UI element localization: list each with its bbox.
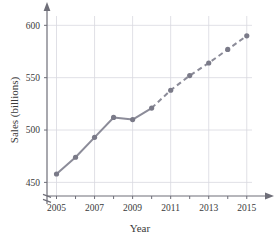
data-point-marker [187,73,192,78]
data-point-marker [168,88,173,93]
x-tick-label: 2007 [85,203,104,213]
x-tick-label: 2011 [161,203,180,213]
y-axis-title: Sales (billions) [8,62,20,158]
data-point-marker [206,60,211,65]
axes [43,2,274,204]
gridlines [47,16,252,196]
y-tick-label: 600 [26,21,41,31]
x-tick-label: 2013 [199,203,218,213]
data-point-marker [244,33,249,38]
x-tick-label: 2015 [237,203,256,213]
sales-line-chart: 450500550600200520072009201120132015 Sal… [0,0,278,244]
data-point-marker [149,105,154,110]
y-axis-arrow [44,2,51,11]
x-tick-label: 2009 [123,203,142,213]
data-point-marker [73,155,78,160]
chart-canvas: 450500550600200520072009201120132015 [0,0,278,244]
data-point-marker [92,135,97,140]
data-point-marker [225,47,230,52]
data-point-marker [111,115,116,120]
y-tick-label: 550 [26,73,41,83]
x-tick-label: 2005 [47,203,66,213]
y-tick-label: 500 [26,125,41,135]
series-line-projected [152,36,247,108]
series-line-actual [57,108,152,174]
tick-labels: 450500550600200520072009201120132015 [26,21,257,213]
y-tick-label: 450 [26,178,41,188]
data-point-marker [54,171,59,176]
data-series [54,33,249,176]
x-axis-title: Year [100,222,180,234]
data-point-marker [130,117,135,122]
x-axis-arrow [265,193,274,200]
